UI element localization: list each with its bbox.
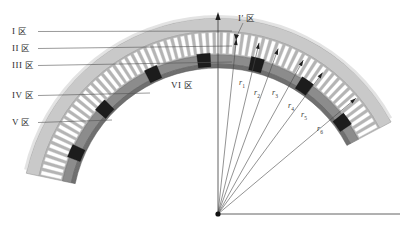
label-zone-char: 区: [25, 60, 35, 70]
radius-label-r6: r6: [317, 124, 323, 135]
radius-subscript: 3: [275, 93, 278, 99]
radius-label-r2: r2: [254, 88, 260, 99]
radius-subscript: 1: [242, 83, 245, 89]
radius-subscript: 4: [291, 106, 294, 112]
radius-label-r5: r5: [301, 110, 307, 121]
label-zone-3: III 区: [12, 61, 34, 70]
label-zone-1-prime: I′ 区: [238, 14, 256, 23]
label-zone-char: 区: [18, 26, 28, 36]
label-zone-4: IV 区: [12, 91, 34, 100]
label-zone-char: 区: [21, 43, 31, 53]
label-zone-char: 区: [21, 117, 31, 127]
label-zone-6: VI 区: [171, 81, 193, 90]
radius-label-r3: r3: [272, 88, 278, 99]
radius-subscript: 2: [257, 93, 260, 99]
label-zone-char: 区: [25, 90, 35, 100]
radius-label-r4: r4: [288, 101, 294, 112]
label-roman: V: [12, 117, 19, 127]
label-zone-5: V 区: [12, 118, 31, 127]
origin-point: [215, 211, 220, 216]
radius-subscript: 5: [304, 115, 307, 121]
label-roman: II: [12, 43, 19, 53]
diagram-root: I 区II 区III 区IV 区V 区VI 区I′ 区 r1r2r3r4r5r6: [0, 0, 408, 232]
label-zone-2: II 区: [12, 44, 31, 53]
label-zone-1: I 区: [12, 27, 27, 36]
label-roman: III: [12, 60, 23, 70]
label-zone-char: 区: [246, 13, 256, 23]
label-roman: VI: [171, 80, 182, 90]
arch-diagram-svg: [0, 0, 408, 232]
label-roman: IV: [12, 90, 23, 100]
radius-label-r1: r1: [239, 78, 245, 89]
label-zone-char: 区: [184, 80, 194, 90]
radius-subscript: 6: [320, 129, 323, 135]
